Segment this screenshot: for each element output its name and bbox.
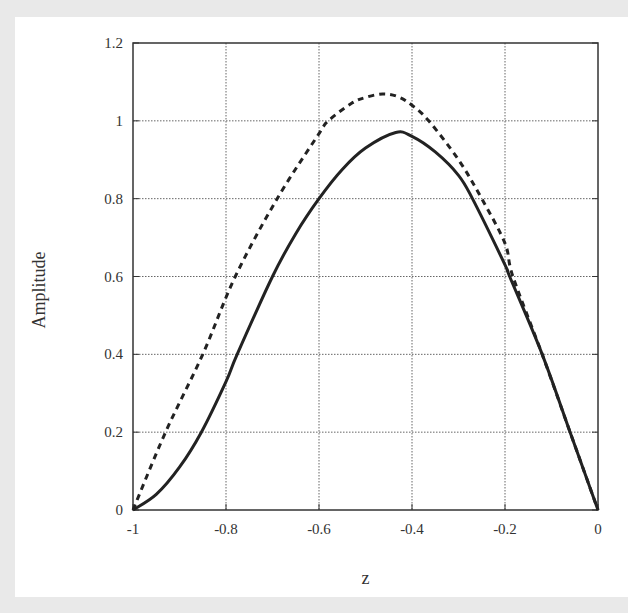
y-tick-label: 0.6	[104, 269, 123, 285]
x-tick-label: -0.6	[307, 521, 331, 537]
x-tick-label: -0.8	[214, 521, 238, 537]
solid-line	[133, 132, 598, 510]
amplitude-chart: -1-0.8-0.6-0.4-0.2000.20.40.60.811.2 z A…	[0, 0, 628, 613]
data-series	[133, 94, 598, 510]
x-tick-label: -1	[127, 521, 140, 537]
x-tick-label: -0.2	[493, 521, 517, 537]
x-tick-label: -0.4	[400, 521, 424, 537]
y-tick-label: 0.2	[104, 424, 123, 440]
y-tick-label: 1.2	[104, 35, 123, 51]
y-tick-label: 0.8	[104, 191, 123, 207]
y-tick-label: 0	[116, 502, 124, 518]
y-tick-label: 0.4	[104, 346, 123, 362]
x-axis-label: z	[362, 568, 370, 588]
y-axis-label: Amplitude	[29, 251, 49, 328]
y-tick-label: 1	[116, 113, 124, 129]
dashed-line	[133, 94, 598, 510]
grid-lines	[133, 43, 598, 510]
x-tick-label: 0	[594, 521, 602, 537]
axis-ticks: -1-0.8-0.6-0.4-0.2000.20.40.60.811.2	[104, 35, 602, 537]
